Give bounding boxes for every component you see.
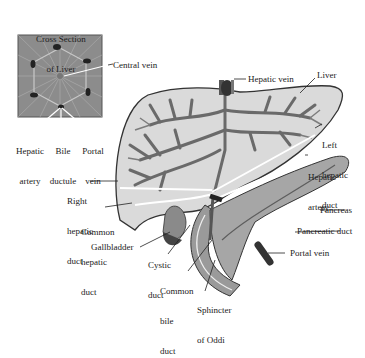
label-gallbladder: Gallbladder	[91, 242, 133, 252]
label-pancreatic-duct: Pancreatic duct	[297, 226, 352, 236]
label-common-bile-duct: Common bile duct	[160, 266, 194, 358]
inset-title-line2: of Liver	[22, 64, 100, 74]
label-central-vein: Central vein	[113, 60, 157, 70]
label-hepatic-vein: Hepatic vein	[248, 74, 294, 84]
inset-title-line1: Cross Section	[22, 34, 100, 44]
label-portal-vein: Portal vein	[290, 248, 329, 258]
label-common-hepatic-duct: Common hepatic duct	[81, 207, 115, 307]
label-pancreas: Pancreas	[320, 205, 352, 215]
label-liver: Liver	[317, 70, 337, 80]
label-inset-hepatic-artery: Hepatic artery	[12, 126, 48, 196]
inset-title: Cross Section of Liver	[22, 14, 100, 84]
label-sphincter-of-oddi: Sphincter of Oddi	[197, 285, 232, 355]
